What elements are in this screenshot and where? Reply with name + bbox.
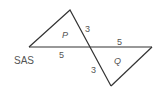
side-label-p-base: 5: [59, 50, 64, 60]
triangle-p-label: P: [62, 30, 68, 40]
triangle-q-label: Q: [114, 56, 121, 66]
caption-sas: SAS: [14, 55, 34, 66]
side-label-q-base: 5: [117, 37, 122, 47]
side-label-q-slant: 3: [91, 65, 96, 75]
triangle-q: [111, 47, 152, 86]
triangle-p-edges: [29, 10, 111, 86]
triangle-q-right-edge: [111, 47, 152, 86]
triangle-p: [29, 10, 111, 86]
sas-congruence-diagram: P Q 3 5 5 3 SAS: [0, 0, 164, 93]
side-label-p-slant: 3: [85, 24, 90, 34]
